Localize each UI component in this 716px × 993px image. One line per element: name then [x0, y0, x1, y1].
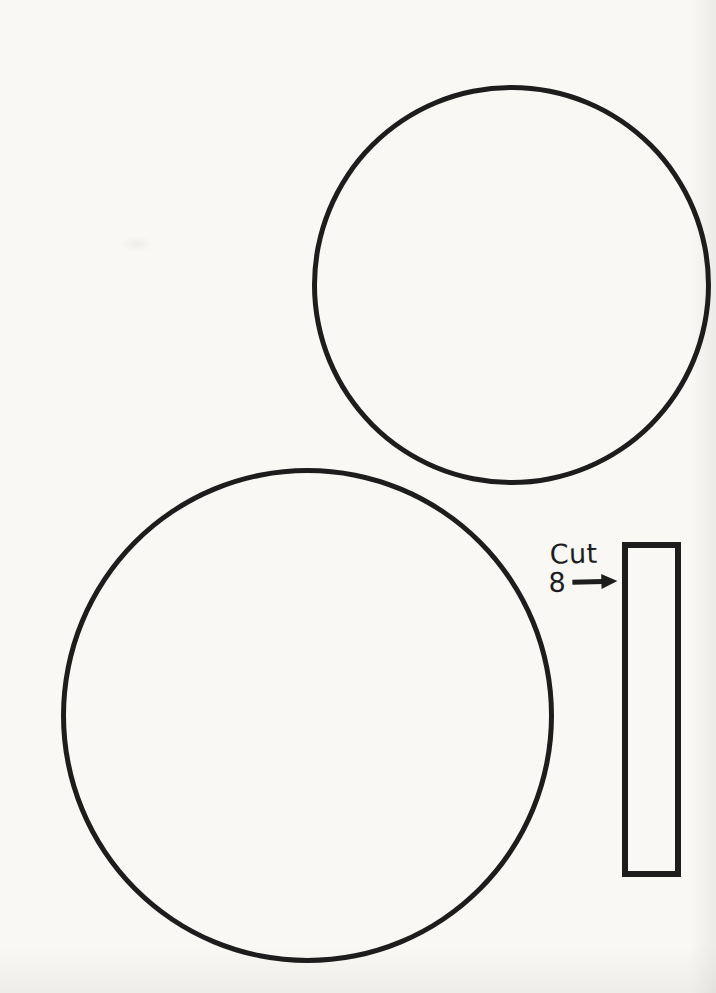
cut-instruction-label: Cut 8 — [547, 539, 618, 596]
strip-pattern-piece — [622, 542, 681, 877]
circle-pattern-piece-bottom — [61, 468, 554, 963]
scanned-pattern-page: Cut 8 — [0, 0, 716, 993]
scan-shadow-right-edge — [690, 0, 716, 993]
scan-smudge — [120, 236, 154, 252]
cut-instruction-word: Cut — [549, 539, 617, 568]
circle-pattern-piece-top — [312, 85, 711, 485]
right-arrow-icon — [571, 573, 617, 590]
cut-instruction-count: 8 — [548, 568, 566, 595]
